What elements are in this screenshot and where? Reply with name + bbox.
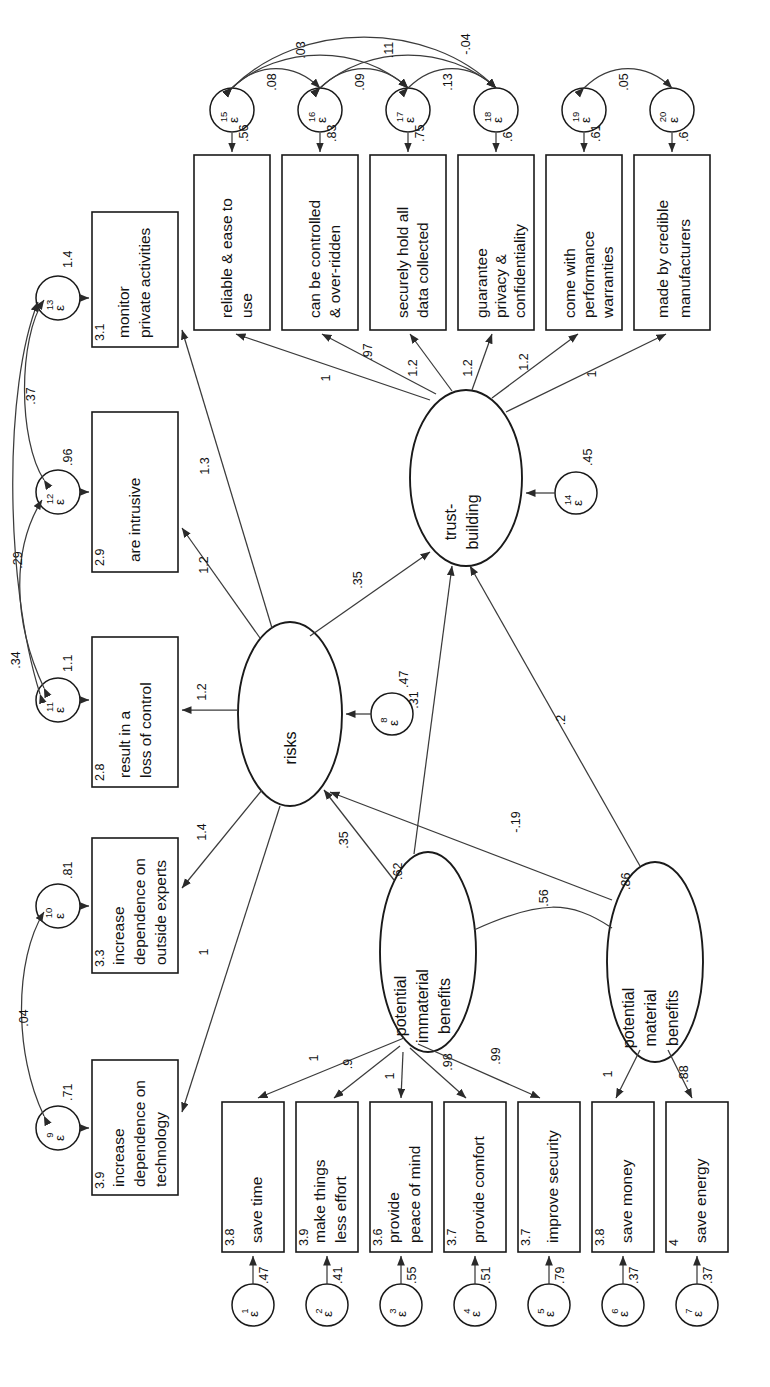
error-e15: ε 15 .56 (210, 88, 254, 152)
load-immaterial-i4 (410, 1048, 466, 1098)
corr-e11-e12-label: .29 (11, 551, 25, 568)
indicator-label-line2: data collected (414, 222, 431, 318)
indicator-i13: 3.1 monitor private activities (92, 212, 178, 347)
indicator-mean: 2.9 (93, 549, 107, 566)
error-subscript: 20 (657, 112, 668, 123)
indicator-label-line1: provide (385, 1192, 402, 1243)
load-risks-i9 (182, 806, 280, 1112)
error-circle (306, 1284, 348, 1326)
error-subscript: 4 (461, 1308, 472, 1313)
path-immaterial-to-trust-label: .31 (407, 691, 421, 708)
indicator-i10: 3.3 increase dependence on outside exper… (92, 838, 178, 973)
error-subscript: 17 (394, 112, 405, 123)
load-trust-i19 (492, 334, 578, 398)
error-subscript: 12 (44, 494, 55, 505)
error-circle (528, 1284, 570, 1326)
indicator-label-line3: outside experts (152, 860, 169, 965)
corr-benefits-label: .56 (537, 889, 551, 906)
indicator-mean: 3.7 (519, 1229, 533, 1246)
error-circle (676, 1284, 718, 1326)
latent-label-line1: risks (282, 732, 299, 765)
error-symbol: ε (52, 913, 67, 919)
path-immaterial-to-risks-label: .35 (337, 831, 351, 848)
error-e10: ε 10 .81 (36, 862, 89, 928)
indicator-i17: securely hold all data collected (370, 155, 446, 330)
path-material-to-trust-label: .2 (554, 715, 568, 725)
indicator-label-line2: performance (580, 231, 597, 318)
load-immaterial-i5-label: .99 (489, 1047, 503, 1064)
load-risks-i13-label: 1.3 (198, 457, 212, 474)
indicator-i2: 3.9 make things less effort (296, 1102, 358, 1252)
error-e12: ε 12 .96 (36, 449, 89, 514)
error-variance: 1.1 (61, 655, 75, 672)
error-e16: ε 16 .83 (298, 88, 342, 152)
error-e2: ε 2 .41 (306, 1256, 348, 1326)
load-trust-i18-label: 1.2 (461, 359, 475, 376)
corr-e11-e13-label: .34 (9, 651, 23, 668)
load-risks-i10-label: 1.4 (195, 823, 209, 840)
indicator-mean: 3.7 (445, 1229, 459, 1246)
latent-label-line1: trust- (442, 504, 459, 540)
indicator-label-line2: less effort (332, 1175, 349, 1243)
error-variance: 1.4 (61, 251, 75, 268)
load-trust-i15 (236, 334, 430, 400)
latent-trust-building: trust- building (410, 390, 522, 566)
error-subscript: 19 (570, 112, 581, 123)
corr-e15-e18-label: -.04 (459, 33, 473, 55)
error-subscript: 14 (562, 495, 573, 506)
path-risks-to-trust (310, 552, 430, 636)
indicator-mean: 3.3 (93, 950, 107, 967)
error-subscript: 6 (609, 1308, 620, 1313)
error-subscript: 9 (44, 1132, 55, 1137)
indicator-label-line3: confidentiality (511, 224, 528, 318)
error-circle (36, 276, 80, 320)
corr-e17-e18-label: .13 (441, 73, 455, 90)
indicator-mean: 3.8 (593, 1229, 607, 1246)
error-variance: .83 (325, 125, 339, 142)
error-e17: ε 17 .75 (386, 88, 430, 152)
indicator-label-line1: securely hold all (394, 207, 411, 318)
indicator-label-line2: & over-ridden (326, 225, 343, 318)
error-e13: ε 13 1.4 (36, 251, 89, 320)
error-subscript: 15 (218, 112, 229, 123)
load-immaterial-i3 (401, 1052, 403, 1098)
latent-material-benefits: potential material benefits .86 (607, 862, 703, 1062)
path-risks-to-trust-label: .35 (351, 571, 365, 588)
error-variance: .96 (61, 449, 75, 466)
error-circle (380, 1284, 422, 1326)
error-variance: .37 (627, 1267, 641, 1284)
indicator-label-line1: save money (618, 1159, 635, 1243)
error-e1: ε 1 .47 (232, 1256, 274, 1326)
load-trust-i16-label: .97 (361, 343, 375, 360)
indicator-mean: 3.1 (93, 324, 107, 341)
load-immaterial-i2-label: .9 (341, 1059, 355, 1069)
indicator-mean: 3.9 (93, 1172, 107, 1189)
error-variance: .6 (677, 132, 691, 142)
error-circle (555, 472, 597, 514)
error-variance: .37 (701, 1267, 715, 1284)
corr-benefits-arc (474, 907, 612, 930)
error-e20: ε 20 .6 (650, 88, 694, 152)
load-immaterial-i1-label: 1 (307, 1054, 321, 1061)
corr-e15-e16-label: .08 (265, 73, 279, 90)
indicator-i3: 3.6 provide peace of mind (370, 1102, 432, 1252)
indicator-mean: 4 (667, 1239, 681, 1246)
corr-e9-e10-label: .04 (17, 1009, 31, 1026)
indicator-mean: 3.8 (223, 1229, 237, 1246)
indicator-i9: 3.9 increase dependence on technology (92, 1060, 178, 1195)
error-variance: .81 (61, 862, 75, 879)
error-subscript: 16 (306, 112, 317, 123)
load-trust-i17-label: 1.2 (406, 359, 420, 376)
latent-label-line3: benefits (436, 978, 453, 1034)
error-variance: .79 (553, 1267, 567, 1284)
load-risks-i12-label: 1.2 (197, 556, 211, 573)
indicator-label-line1: make things (311, 1159, 328, 1243)
indicator-label-line1: save energy (692, 1158, 709, 1243)
indicator-mean: 3.9 (297, 1229, 311, 1246)
indicator-i5: 3.7 improve security (518, 1102, 580, 1252)
load-risks-i9-label: 1 (197, 948, 211, 955)
indicator-label-line1: made by credible (654, 200, 671, 318)
disturbance-e8: ε 8 .47 (346, 671, 413, 735)
corr-e19-e20-label: .05 (617, 73, 631, 90)
indicator-label-line2: dependence on (131, 1080, 148, 1187)
